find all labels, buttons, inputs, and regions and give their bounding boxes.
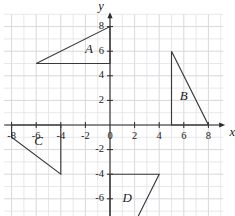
y-tick-label-4: 4 xyxy=(99,69,105,80)
x-tick-label--8: -8 xyxy=(7,130,16,141)
axis-names: xy xyxy=(96,0,235,139)
x-tick-label-2: 2 xyxy=(132,130,137,141)
x-tick-label--2: -2 xyxy=(81,130,90,141)
shape-label-c: C xyxy=(34,133,43,148)
grid-lines xyxy=(4,14,223,216)
y-tick-label--2: -2 xyxy=(95,143,104,154)
x-axis-label: x xyxy=(228,125,235,139)
y-tick-label--6: -6 xyxy=(95,192,104,203)
y-tick-label-6: 6 xyxy=(99,45,104,56)
y-axis-label: y xyxy=(96,0,104,13)
x-axis-arrowhead xyxy=(219,122,225,127)
shape-label-d: D xyxy=(122,190,133,205)
x-tick-label-6: 6 xyxy=(181,130,186,141)
y-axis-arrowhead xyxy=(107,12,112,18)
y-tick-label-8: 8 xyxy=(99,20,104,31)
shape-label-a: A xyxy=(84,41,93,56)
y-tick-label-2: 2 xyxy=(99,94,104,105)
coordinate-plane-svg: -8-6-4-2024688642-2-4-6-8 ABCD xy xyxy=(0,0,235,216)
coordinate-plane-figure: -8-6-4-2024688642-2-4-6-8 ABCD xy xyxy=(0,0,235,216)
x-tick-label--4: -4 xyxy=(56,130,65,141)
x-tick-label-0: 0 xyxy=(107,130,112,141)
shape-labels: ABCD xyxy=(34,41,187,205)
x-tick-label-4: 4 xyxy=(157,130,163,141)
x-tick-label-8: 8 xyxy=(206,130,211,141)
axes xyxy=(4,12,225,216)
shape-label-b: B xyxy=(180,88,188,103)
y-tick-label--4: -4 xyxy=(95,168,104,179)
